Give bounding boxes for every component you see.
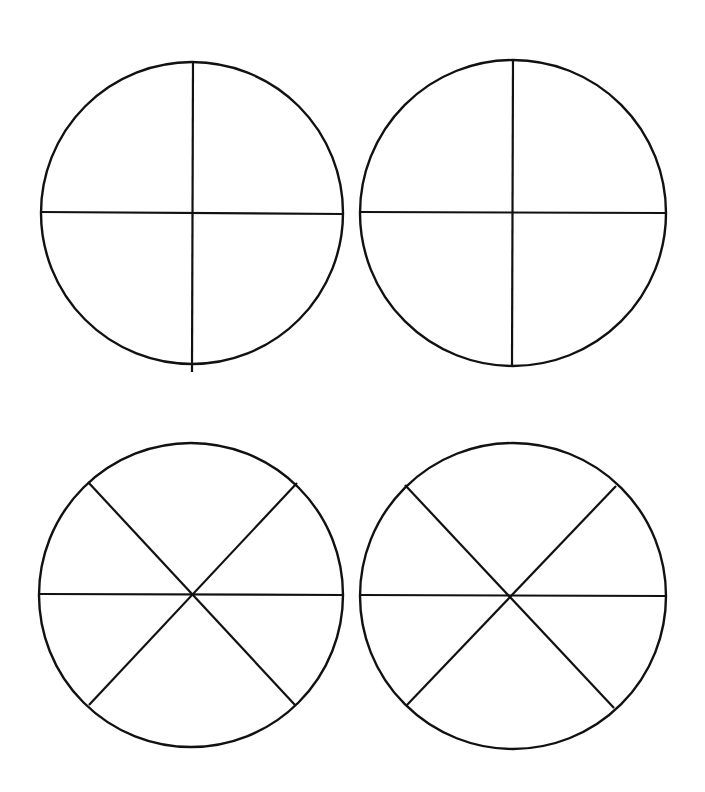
circle-sixths-bottom-left: [39, 443, 343, 747]
divider-line: [512, 60, 513, 367]
divider-line: [192, 62, 193, 372]
divider-line: [361, 595, 666, 596]
fraction-circles-diagram: [0, 0, 705, 792]
circle-quarters-top-left: [41, 62, 343, 372]
circle-sixths-bottom-right: [360, 443, 666, 749]
circle-quarters-top-right: [360, 60, 666, 367]
